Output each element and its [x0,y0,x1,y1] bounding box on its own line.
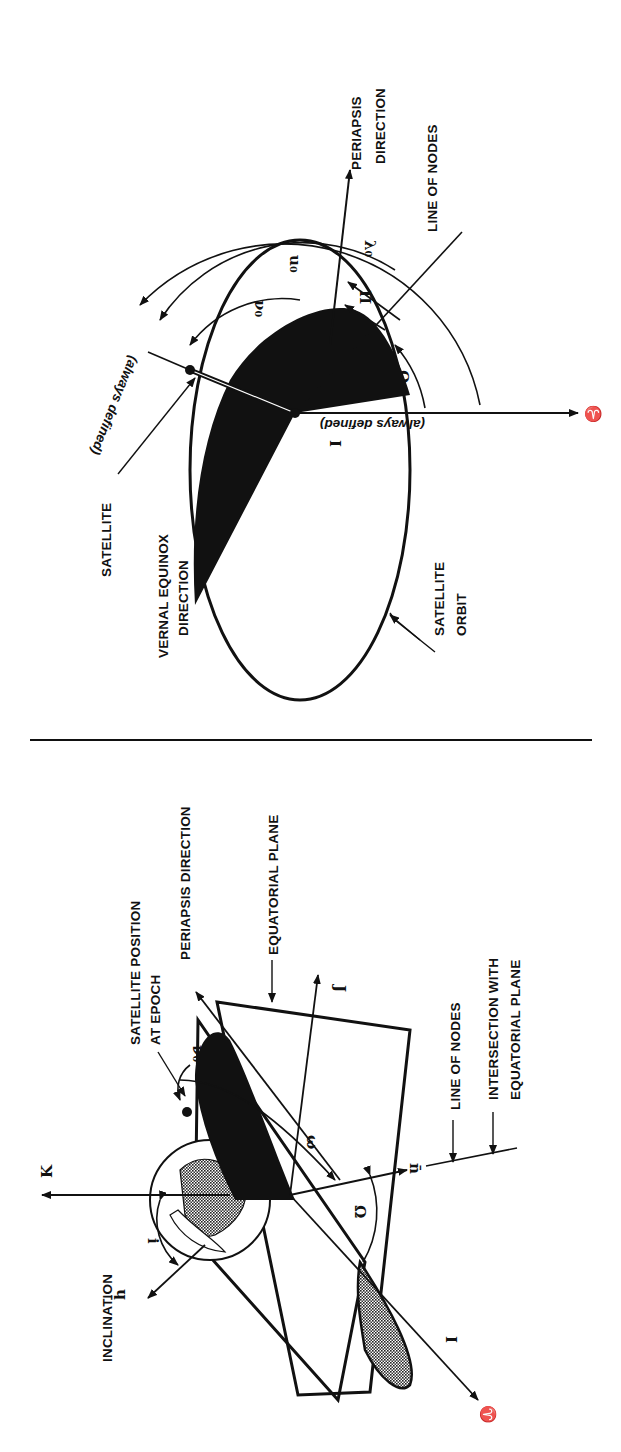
orbital-elements-figure: LINE OF NODES PERIAPSIS DIRECTION ♈ (alw… [0,0,621,1452]
h-vector [148,1245,205,1298]
always-defined-label-2: (always defined) [88,354,141,457]
swept-sector [194,308,410,605]
intersection-label-1: INTERSECTION WITH [486,958,501,1100]
satellite-dot [185,365,195,375]
Omega-arc-left [363,1175,377,1262]
omega-symbol: ω [344,312,362,326]
satellite-radius-extension [148,352,190,370]
equatorial-plane-label: EQUATORIAL PLANE [266,815,281,955]
u0-symbol: u₀ [286,255,304,273]
epoch-pointer [158,1052,185,1096]
line-of-nodes-label: LINE OF NODES [425,124,440,232]
orbit-pointer-arrow [390,615,420,640]
I-symbol-left: I [442,1336,460,1343]
orbit-label-2: ORBIT [454,592,469,636]
nu0-symbol: ν₀ [251,300,269,317]
periapsis-label-2: DIRECTION [373,88,388,164]
Pi-symbol: Π [356,290,374,304]
inclination-label: INCLINATION [100,1274,115,1362]
j-symbol: J [331,983,349,992]
line-of-nodes-extension [426,1148,517,1166]
line-of-nodes-label-left: LINE OF NODES [448,1002,463,1110]
epoch-label-1: SATELLITE POSITION [128,901,143,1045]
n-symbol: n̄ [406,1163,424,1174]
periapsis-label-1: PERIAPSIS [349,96,364,170]
Omega-symbol: Ω [394,370,412,383]
focus-dot [290,408,300,418]
aries-symbol: ♈ [584,405,603,423]
geometry-3d-panel: K J ♈ I n̄ h̄ i ω ν₀ Ω SATELLITE POSITIO [38,806,523,1424]
lambda0-symbol: λ₀ [361,240,379,258]
vernal-equinox-label-2: DIRECTION [176,560,191,636]
i-symbol: i [144,1238,162,1244]
j-axis [290,975,318,1195]
orbit-plane-panel: LINE OF NODES PERIAPSIS DIRECTION ♈ (alw… [88,88,603,700]
orbit-label-1: SATELLITE [432,562,447,636]
intersection-label-2: EQUATORIAL PLANE [508,960,523,1100]
satellite-label: SATELLITE [99,503,114,577]
always-defined-label-1: (always defined) [319,417,425,432]
satellite-pointer [118,378,195,474]
I-symbol: I [326,440,344,447]
node-vector [290,1170,407,1195]
epoch-satellite-dot [182,1107,192,1117]
orbit-pointer [390,613,435,652]
epoch-label-2: AT EPOCH [148,975,163,1045]
u0-arc [160,243,395,320]
omega-symbol-left: ω [303,1135,321,1149]
orbit-lower-stippled [358,1262,412,1388]
Omega-symbol-left: Ω [351,1205,369,1218]
nu0-symbol-left: ν₀ [189,1045,207,1062]
periapsis-direction-label: PERIAPSIS DIRECTION [178,806,193,960]
aries-symbol-left: ♈ [479,1405,497,1424]
k-symbol: K [38,1164,56,1178]
vernal-equinox-label-1: VERNAL EQUINOX [156,534,171,658]
